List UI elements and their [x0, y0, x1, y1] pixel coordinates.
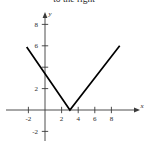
x-tick-label-4: 4 [76, 115, 80, 123]
x-tick-label-2: 2 [60, 115, 64, 123]
x-axis [6, 108, 140, 113]
caption-clip: to the right [0, 0, 148, 6]
y-tick-label-8: 8 [35, 21, 39, 29]
absolute-value-curve [27, 46, 120, 110]
x-tick-label-6: 6 [93, 115, 97, 123]
y-tick-label-neg2: -2 [32, 128, 38, 136]
y-axis-arrow [43, 12, 48, 18]
x-tick-label-neg2: -2 [25, 115, 31, 123]
figure-page: to the right [0, 0, 148, 144]
graph-figure: -2 2 4 6 8 2 6 8 -2 x y [0, 8, 148, 144]
caption-text: to the right [0, 0, 148, 5]
x-axis-arrow [134, 108, 140, 113]
x-tick-label-8: 8 [110, 115, 114, 123]
x-axis-label: x [139, 102, 144, 110]
y-tick-label-6: 6 [35, 42, 39, 50]
graph-svg: -2 2 4 6 8 2 6 8 -2 x y [0, 8, 148, 144]
y-tick-label-2: 2 [35, 85, 39, 93]
y-axis-label: y [47, 10, 52, 18]
